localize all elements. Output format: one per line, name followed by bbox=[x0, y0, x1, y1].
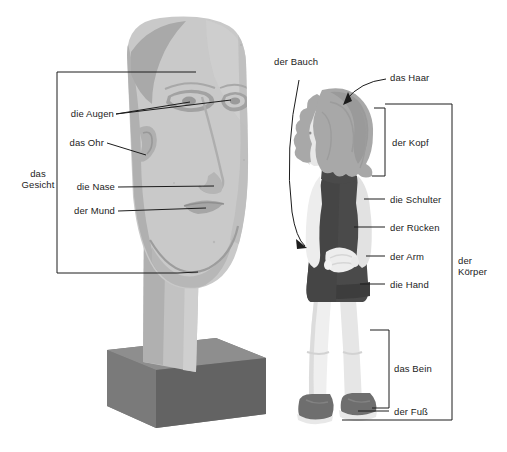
label-die-hand-text: die Hand bbox=[390, 279, 429, 290]
arrowhead-bauch-fill bbox=[296, 239, 307, 249]
label-das-ohr-text: das Ohr bbox=[70, 137, 105, 148]
label-die-nase-text: die Nase bbox=[77, 181, 115, 192]
sculpture-group bbox=[107, 17, 266, 428]
sculpture-head bbox=[124, 17, 250, 289]
body-parts-diagram: das Gesicht die Augen das Ohr die Nase d… bbox=[0, 0, 507, 452]
label-der-fuss-text: der Fuß bbox=[394, 406, 428, 417]
label-der-ruecken: der Rücken bbox=[390, 222, 440, 233]
girl-figure bbox=[294, 88, 377, 424]
label-der-bauch-text: der Bauch bbox=[274, 56, 318, 67]
hair bbox=[294, 88, 373, 177]
label-der-fuss: der Fuß bbox=[394, 406, 428, 417]
legs bbox=[307, 300, 362, 404]
label-der-arm: der Arm bbox=[390, 251, 424, 262]
label-der-kopf: der Kopf bbox=[392, 137, 429, 148]
label-das-ohr: das Ohr bbox=[36, 137, 104, 148]
label-der-ruecken-text: der Rücken bbox=[390, 222, 440, 233]
label-der-mund: der Mund bbox=[34, 205, 115, 216]
bracket-kopf-arms bbox=[372, 108, 385, 176]
label-der-koerper: der Körper bbox=[458, 255, 487, 277]
label-der-mund-text: der Mund bbox=[74, 205, 115, 216]
label-das-haar-text: das Haar bbox=[390, 72, 429, 83]
label-die-schulter: die Schulter bbox=[390, 194, 441, 205]
label-die-augen-text: die Augen bbox=[71, 108, 114, 119]
label-der-arm-text: der Arm bbox=[390, 251, 424, 262]
label-das-bein: das Bein bbox=[394, 363, 432, 374]
label-die-hand: die Hand bbox=[390, 279, 429, 290]
label-die-nase: die Nase bbox=[36, 181, 115, 192]
label-der-bauch: der Bauch bbox=[274, 56, 318, 67]
label-die-schulter-text: die Schulter bbox=[390, 194, 441, 205]
label-das-haar: das Haar bbox=[390, 72, 429, 83]
label-die-augen: die Augen bbox=[36, 108, 114, 119]
label-das-bein-text: das Bein bbox=[394, 363, 432, 374]
label-der-koerper-text: der Körper bbox=[458, 255, 487, 277]
leader-bauch bbox=[289, 80, 305, 246]
bracket-bein-arms bbox=[370, 330, 389, 408]
label-der-kopf-text: der Kopf bbox=[392, 137, 429, 148]
